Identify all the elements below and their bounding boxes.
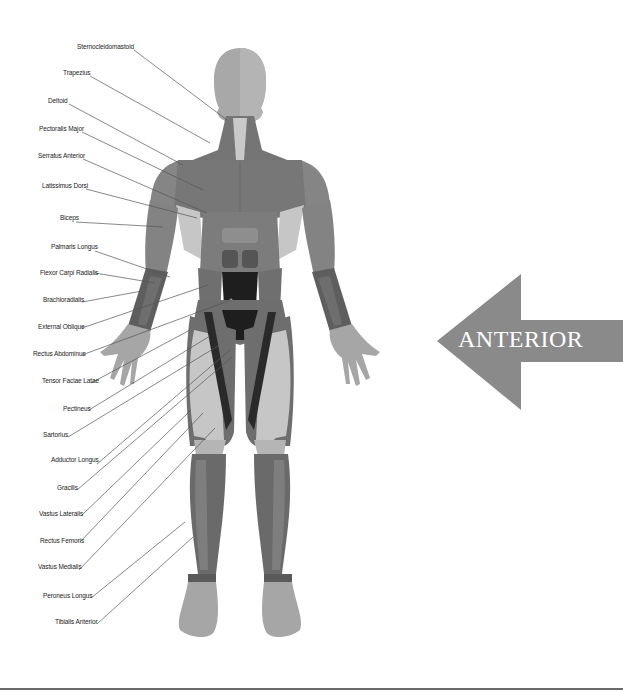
label-vastus-medialis: Vastus Medialis: [38, 563, 82, 570]
label-tensor-faciae-latae: Tensor Faciae Latae: [42, 377, 99, 384]
label-adductor-longus: Adductor Longus: [51, 456, 99, 463]
bottom-divider: [0, 688, 623, 690]
body-figure: [100, 48, 380, 637]
anterior-view-label: ANTERIOR: [458, 326, 583, 353]
label-peroneus-longus: Peroneus Longus: [43, 592, 92, 599]
label-pectoralis-major: Pectoralis Major: [39, 125, 84, 132]
label-rectus-femoris: Rectus Femoris: [40, 537, 84, 544]
label-flexor-carpi-radialis: Flexor Carpi Radialis: [40, 269, 98, 276]
label-sternocleidomastoid: Sternocleidomastoid: [77, 43, 134, 50]
anatomy-diagram: Sternocleidomastoid Trapezius Deltoid Pe…: [0, 0, 623, 693]
label-rectus-abdominus: Rectus Abdominus: [33, 350, 86, 357]
label-pectineus: Pectineus: [63, 405, 91, 412]
label-latissimus-dorsi: Latissimus Dorsi: [42, 182, 88, 189]
label-deltoid: Deltoid: [48, 97, 68, 104]
label-brachioradialis: Brachioradialis: [43, 296, 84, 303]
label-palmaris-longus: Palmaris Longus: [51, 243, 98, 250]
label-tibialis-anterior: Tibialis Anterior: [55, 618, 98, 625]
label-sartorius: Sartorius: [43, 431, 68, 438]
label-external-oblique: External Oblique: [38, 323, 84, 330]
label-gracilis: Gracilis: [57, 484, 78, 491]
label-serratus-anterior: Serratus Anterior: [38, 152, 85, 159]
label-vastus-lateralis: Vastus Lateralis: [39, 510, 83, 517]
label-biceps: Biceps: [60, 214, 79, 221]
label-trapezius: Trapezius: [63, 69, 90, 76]
